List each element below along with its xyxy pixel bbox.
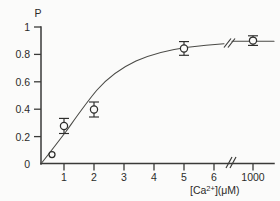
data-point-0 bbox=[49, 152, 55, 158]
y-axis-title: P bbox=[34, 7, 41, 19]
x-tick-label-1: 1 bbox=[61, 171, 67, 183]
marker-circle bbox=[180, 45, 187, 52]
marker-circle bbox=[60, 122, 67, 129]
y-tick-label-0.2: 0.2 bbox=[15, 131, 30, 143]
x-axis-title-close: ](μM) bbox=[215, 184, 240, 196]
y-tick-label-0.4: 0.4 bbox=[15, 103, 30, 115]
x-tick-label-6: 6 bbox=[211, 171, 217, 183]
plot-canvas: 1 0.8 0.6 0.4 0.2 0 P bbox=[0, 0, 280, 201]
x-tick-label-1000: 1000 bbox=[241, 171, 265, 183]
x-tick-label-5: 5 bbox=[181, 171, 187, 183]
figure-root: 1 0.8 0.6 0.4 0.2 0 P bbox=[0, 0, 280, 201]
x-axis-title: [Ca2+](μM) bbox=[190, 184, 240, 197]
y-tick-label-0.6: 0.6 bbox=[15, 76, 30, 88]
y-tick-label-0: 0 bbox=[24, 158, 30, 170]
x-tick-label-2: 2 bbox=[91, 171, 97, 183]
marker-circle bbox=[249, 37, 256, 44]
y-tick-label-0.8: 0.8 bbox=[15, 48, 30, 60]
y-tick-label-1: 1 bbox=[24, 21, 30, 33]
x-axis-title-open: [Ca bbox=[190, 184, 207, 196]
marker-circle bbox=[90, 106, 97, 113]
x-tick-label-4: 4 bbox=[151, 171, 157, 183]
plot-background bbox=[0, 0, 280, 201]
x-tick-label-3: 3 bbox=[121, 171, 127, 183]
marker-circle bbox=[49, 152, 55, 158]
